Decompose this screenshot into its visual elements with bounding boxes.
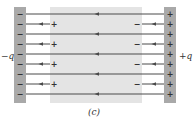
induced-negative-charge: −: [134, 40, 141, 49]
left-plate-negative-charge: −: [17, 60, 24, 69]
right-plate-positive-charge: +: [167, 10, 174, 19]
induced-positive-charge: +: [51, 60, 58, 69]
left-plate-negative-charge: −: [17, 80, 24, 89]
left-plate-charge-label: −q: [1, 51, 14, 61]
induced-positive-charge: +: [51, 80, 58, 89]
right-plate-positive-charge: +: [167, 40, 174, 49]
left-plate-negative-charge: −: [17, 40, 24, 49]
right-plate-positive-charge: +: [167, 50, 174, 59]
right-plate-positive-charge: +: [167, 20, 174, 29]
induced-negative-charge: −: [134, 60, 141, 69]
left-plate-negative-charge: −: [17, 20, 24, 29]
arrowhead-left-icon: [39, 22, 44, 26]
left-plate-negative-charge: −: [17, 50, 24, 59]
arrowhead-left-icon: [152, 62, 157, 66]
induced-positive-charge: +: [51, 40, 58, 49]
arrowhead-left-icon: [152, 82, 157, 86]
left-plate-negative-charge: −: [17, 90, 24, 99]
arrowhead-left-icon: [39, 42, 44, 46]
right-plate-positive-charge: +: [167, 80, 174, 89]
right-plate-positive-charge: +: [167, 70, 174, 79]
right-plate-positive-charge: +: [167, 60, 174, 69]
left-plate-negative-charge: −: [17, 30, 24, 39]
arrowhead-left-icon: [152, 42, 157, 46]
induced-negative-charge: −: [134, 80, 141, 89]
arrowhead-left-icon: [39, 82, 44, 86]
right-plate-positive-charge: +: [167, 30, 174, 39]
arrowhead-left-icon: [39, 62, 44, 66]
right-plate-positive-charge: +: [167, 90, 174, 99]
induced-positive-charge: +: [51, 20, 58, 29]
dielectric-slab: [50, 7, 142, 103]
figure-caption: (c): [88, 107, 100, 117]
arrowhead-left-icon: [152, 22, 157, 26]
capacitor-dielectric-diagram: +−+−+−+−−+−+−+−+−+−+−+−+−+: [0, 0, 194, 124]
induced-negative-charge: −: [134, 20, 141, 29]
left-plate-negative-charge: −: [17, 70, 24, 79]
left-plate-negative-charge: −: [17, 10, 24, 19]
right-plate-charge-label: +q: [179, 51, 192, 61]
